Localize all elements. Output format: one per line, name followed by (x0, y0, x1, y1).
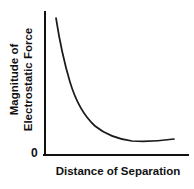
y-axis-label-line-2: Electrostatic Force (22, 27, 36, 131)
y-axis-label-line-1: Magnitude of (9, 27, 23, 131)
chart-figure: 0 Magnitude of Electrostatic Force Dista… (0, 0, 194, 189)
x-axis-label: Distance of Separation (44, 164, 192, 178)
y-axis-label: Magnitude of Electrostatic Force (0, 0, 44, 158)
data-curve (56, 18, 174, 141)
